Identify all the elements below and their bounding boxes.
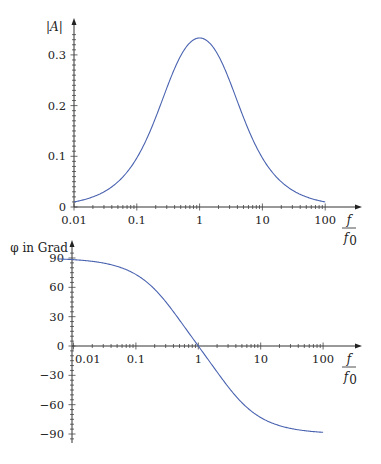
y-tick-label: −30	[40, 368, 64, 382]
x-tick-label: 10	[255, 213, 270, 227]
x-tick-label: 1	[196, 213, 203, 227]
phase-axes	[72, 244, 358, 443]
magnitude-plot: |A| 00.10.20.3 0.010.1110100 f f 0	[46, 18, 362, 248]
magnitude-axes	[74, 22, 358, 207]
y-tick-label: −60	[40, 398, 64, 412]
magnitude-x-ticks: 0.010.1110100	[61, 213, 336, 227]
x-tick-label: 100	[312, 352, 334, 366]
y-tick-label: −90	[40, 427, 64, 441]
y-tick-label: 0.2	[48, 99, 66, 113]
y-tick-label: 0.3	[48, 48, 66, 62]
magnitude-y-label: |A|	[46, 20, 63, 34]
x-tick-label: 10	[253, 352, 268, 366]
x-tick-label: 0.1	[128, 213, 146, 227]
x-tick-label: 1	[195, 352, 202, 366]
magnitude-curve	[74, 38, 325, 202]
y-tick-label: 60	[49, 280, 64, 294]
x-tick-label: 100	[314, 213, 336, 227]
y-tick-label: 0.1	[48, 149, 66, 163]
y-tick-label: 0	[59, 200, 66, 214]
magnitude-y-ticks: 00.10.20.3	[48, 48, 66, 214]
y-tick-label: 30	[49, 310, 64, 324]
phase-y-ticks: 9060300−30−60−90	[40, 251, 64, 441]
y-tick-label: 0	[57, 339, 64, 353]
bode-plot: |A| 00.10.20.3 0.010.1110100 f f 0 φ in …	[0, 0, 381, 464]
x-tick-label: 0.01	[61, 213, 87, 227]
y-tick-label: 90	[49, 251, 64, 265]
magnitude-x-label: f f 0	[342, 213, 357, 248]
y-axis-arrow-icon	[70, 240, 75, 247]
x-tick-label: 0.1	[127, 352, 145, 366]
x-axis-arrow-icon	[355, 205, 362, 210]
svg-text:f: f	[346, 213, 354, 227]
x-tick-label: 0.01	[75, 352, 101, 366]
y-axis-arrow-icon	[72, 18, 77, 25]
magnitude-minor-ticks	[71, 35, 326, 211]
svg-text:f: f	[346, 352, 354, 366]
svg-text:0: 0	[349, 234, 357, 248]
x-axis-arrow-icon	[355, 344, 362, 349]
phase-x-label: f f 0	[342, 352, 357, 387]
svg-text:0: 0	[349, 373, 357, 387]
phase-plot: φ in Grad 9060300−30−60−90 0.010.1110100…	[10, 240, 362, 443]
